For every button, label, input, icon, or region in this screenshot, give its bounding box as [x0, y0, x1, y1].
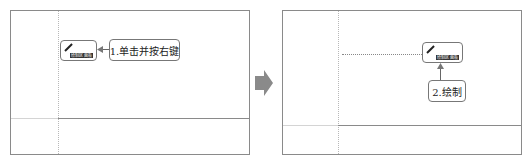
left-vertical-guide	[58, 11, 59, 154]
pen-icon	[426, 45, 434, 53]
tool-button-label: 绘制区 面板	[436, 55, 459, 60]
transition-arrow-icon	[255, 70, 273, 96]
left-draw-tool-button[interactable]: 绘制区 面板	[60, 40, 97, 61]
left-canvas-frame	[10, 10, 250, 155]
left-callout-arrowhead-icon	[97, 46, 103, 53]
right-canvas-frame	[282, 10, 522, 155]
right-callout-arrow	[440, 68, 441, 80]
right-horizontal-guide-light	[283, 125, 338, 126]
tool-button-label: 绘制区 面板	[70, 53, 93, 58]
left-horizontal-guide-light	[11, 118, 58, 119]
pen-icon	[64, 43, 72, 51]
right-drawing-dotted-line	[342, 54, 422, 55]
right-vertical-guide	[338, 11, 339, 154]
right-draw-tool-button[interactable]: 绘制区 面板	[422, 42, 463, 63]
left-step-callout: 1.单击并按右键	[109, 39, 180, 61]
right-horizontal-guide	[338, 125, 521, 126]
left-horizontal-guide	[58, 118, 249, 119]
right-callout-arrowhead-icon	[437, 63, 444, 69]
right-step-callout: 2.绘制	[428, 80, 466, 102]
